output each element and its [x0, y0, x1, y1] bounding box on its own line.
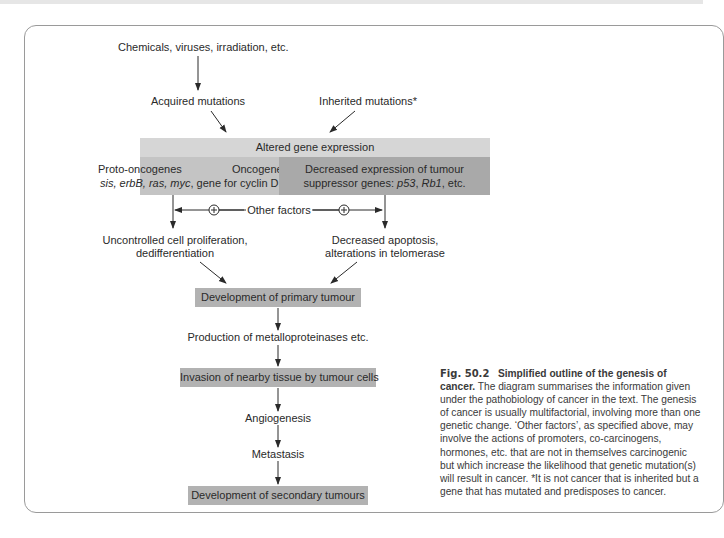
- oncogene-names: sis, erbB, ras, myc: [100, 177, 190, 189]
- gene-p53: p53: [397, 177, 415, 189]
- proto-oncogenes-label: Proto-oncogenes: [98, 163, 182, 175]
- tumour-suppressor-box: Decreased expression of tumour suppresso…: [279, 157, 490, 195]
- suppressor-line2: suppressor genes: p53, Rb1, etc.: [279, 176, 490, 190]
- invasion-box: Invasion of nearby tissue by tumour cell…: [180, 368, 376, 387]
- suppressor-label: suppressor genes:: [303, 177, 397, 189]
- figure-label: Fig. 50.2: [440, 368, 489, 379]
- metastasis: Metastasis: [228, 448, 328, 461]
- oncogene-line2: sis, erbB, ras, myc, gene for cyclin D, …: [100, 176, 279, 190]
- etc-label: , etc.: [442, 177, 466, 189]
- gene-rb1: Rb1: [422, 177, 442, 189]
- other-factors: Other factors: [247, 204, 311, 217]
- right-outcome: Decreased apoptosis, alterations in telo…: [315, 234, 455, 260]
- left-outcome: Uncontrolled cell proliferation, dediffe…: [95, 234, 255, 260]
- oncogenes-box: Proto-oncogenes Oncogenes sis, erbB, ras…: [140, 157, 279, 195]
- figure-body: The diagram summarises the information g…: [440, 381, 700, 497]
- cause-chemicals: Chemicals, viruses, irradiation, etc.: [118, 41, 278, 54]
- right-outcome-line1: Decreased apoptosis,: [315, 234, 455, 247]
- figure-caption: Fig. 50.2 Simplified outline of the gene…: [440, 367, 702, 498]
- left-outcome-line1: Uncontrolled cell proliferation,: [95, 234, 255, 247]
- suppressor-line1: Decreased expression of tumour: [279, 162, 490, 176]
- secondary-tumours-box: Development of secondary tumours: [188, 486, 368, 505]
- right-outcome-line2: alterations in telomerase: [315, 247, 455, 260]
- left-outcome-line2: dedifferentiation: [95, 247, 255, 260]
- oncogene-line1: Proto-oncogenes Oncogenes: [140, 162, 279, 176]
- acquired-mutations: Acquired mutations: [138, 95, 258, 108]
- inherited-mutations: Inherited mutations*: [308, 95, 428, 108]
- primary-tumour-box: Development of primary tumour: [195, 288, 361, 307]
- metalloproteinases: Production of metalloproteinases etc.: [178, 331, 378, 344]
- angiogenesis: Angiogenesis: [228, 412, 328, 425]
- altered-gene-expression-band: Altered gene expression: [140, 138, 490, 157]
